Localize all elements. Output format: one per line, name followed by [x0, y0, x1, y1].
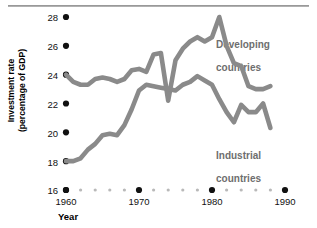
series-line-industrial: [66, 76, 270, 161]
y-tick-dot: [63, 14, 69, 20]
x-minor-tick-dot: [196, 188, 199, 191]
x-minor-tick-dot: [94, 188, 97, 191]
x-minor-tick-dot: [123, 188, 126, 191]
x-axis-minor-ticks: [79, 188, 272, 191]
y-tick-dot: [63, 187, 69, 193]
y-tick-dot: [63, 100, 69, 106]
x-major-tick-dot: [282, 187, 288, 193]
x-minor-tick-dot: [240, 188, 243, 191]
y-tick-dot: [63, 43, 69, 49]
x-minor-tick-dot: [269, 188, 272, 191]
x-minor-tick-dot: [108, 188, 111, 191]
x-major-tick-dot: [209, 187, 215, 193]
chart-plot-area: [0, 0, 317, 228]
y-tick-dot: [63, 129, 69, 135]
chart-figure: Investment rate (percentage of GDP) 28 2…: [0, 0, 317, 228]
x-minor-tick-dot: [254, 188, 257, 191]
x-minor-tick-dot: [181, 188, 184, 191]
x-minor-tick-dot: [167, 188, 170, 191]
x-minor-tick-dot: [152, 188, 155, 191]
y-axis-ticks: [63, 14, 69, 193]
x-major-tick-dot: [136, 187, 142, 193]
x-minor-tick-dot: [225, 188, 228, 191]
x-minor-tick-dot: [79, 188, 82, 191]
